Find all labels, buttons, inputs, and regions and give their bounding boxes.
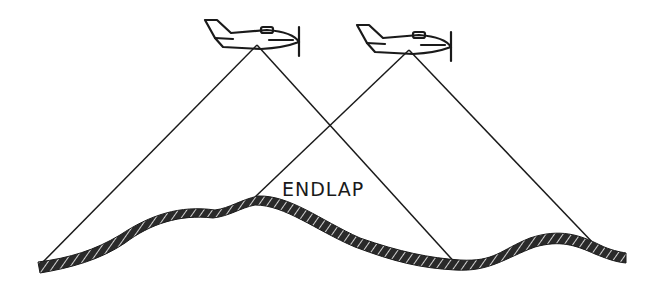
coverage-line-1-right — [257, 45, 458, 266]
coverage-line-2-left — [255, 50, 409, 197]
endlap-label: ENDLAP — [282, 178, 364, 200]
endlap-diagram: ENDLAP — [0, 0, 664, 303]
coverage-line-1-left — [40, 45, 257, 265]
coverage-line-2-right — [409, 50, 595, 245]
terrain-ground — [38, 196, 626, 273]
